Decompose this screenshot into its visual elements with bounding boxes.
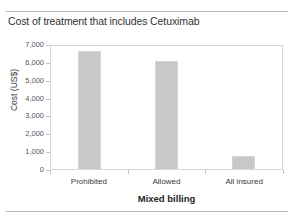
x-tick-mark — [283, 170, 284, 174]
figure-container: Cost of treatment that includes Cetuxima… — [0, 0, 294, 219]
y-axis-title: Cost (US$) — [9, 44, 19, 136]
y-tick-label: 7,000 — [0, 41, 44, 49]
bar-slot — [51, 46, 128, 169]
figure-rule-bottom — [6, 211, 288, 212]
bar-slot — [128, 46, 205, 169]
x-tick-label: Allowed — [128, 177, 206, 186]
x-axis-title: Mixed billing — [50, 193, 283, 204]
x-tick-mark — [50, 170, 51, 174]
bar-slot — [205, 46, 282, 169]
y-tick-label: 5,000 — [0, 77, 44, 85]
plot-area — [50, 45, 283, 170]
x-tick-label: All insured — [205, 177, 283, 186]
y-tick-label: 4,000 — [0, 95, 44, 103]
y-tick-label: 3,000 — [0, 112, 44, 120]
x-tick-mark — [205, 170, 206, 174]
y-axis: 01,0002,0003,0004,0005,0006,0007,000 — [0, 45, 44, 170]
x-axis-tick-labels: ProhibitedAllowedAll insured — [50, 177, 283, 186]
title-rule-top — [6, 11, 288, 12]
bar-all-insured[interactable] — [232, 156, 255, 169]
x-tick-label: Prohibited — [50, 177, 128, 186]
bar-allowed[interactable] — [155, 61, 178, 169]
bar-series — [51, 46, 282, 169]
y-tick-label: 2,000 — [0, 130, 44, 138]
chart-title: Cost of treatment that includes Cetuxima… — [8, 15, 288, 28]
bar-prohibited[interactable] — [78, 51, 101, 169]
y-tick-label: 6,000 — [0, 59, 44, 67]
x-tick-mark — [128, 170, 129, 174]
y-tick-label: 1,000 — [0, 148, 44, 156]
y-tick-label: 0 — [0, 166, 44, 174]
